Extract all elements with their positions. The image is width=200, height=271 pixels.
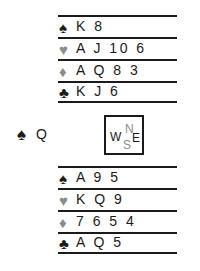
north-spade-ranks: K 8 [76, 18, 105, 34]
compass-south-label: S [123, 139, 131, 151]
compass-west-label: W [110, 131, 121, 143]
north-heart-ranks: A J 10 6 [76, 40, 147, 56]
south-heart-row: ♥ K Q 9 [58, 188, 177, 210]
heart-suit-icon: ♥ [59, 193, 76, 208]
south-diamond-row: ♦ 7 6 5 4 [58, 210, 177, 232]
north-club-ranks: K J 6 [76, 83, 120, 99]
spade-suit-icon: ♠ [59, 20, 76, 35]
north-hand: ♠ K 8 ♥ A J 10 6 ♦ A Q 8 3 ♣ K J 6 [58, 15, 177, 103]
compass-east-label: E [132, 132, 140, 144]
north-diamond-row: ♦ A Q 8 3 [58, 59, 177, 81]
club-suit-icon: ♣ [59, 236, 76, 251]
north-heart-row: ♥ A J 10 6 [58, 37, 177, 59]
south-club-ranks: A Q 5 [76, 234, 124, 250]
compass-box: N S W E [104, 115, 144, 155]
south-spade-row: ♠ A 9 5 [58, 166, 177, 188]
south-diamond-ranks: 7 6 5 4 [76, 213, 136, 229]
south-spade-ranks: A 9 5 [76, 169, 120, 185]
south-heart-ranks: K Q 9 [76, 191, 124, 207]
diamond-suit-icon: ♦ [59, 64, 76, 79]
spade-suit-icon: ♠ [59, 171, 76, 186]
north-spade-row: ♠ K 8 [58, 15, 177, 37]
north-diamond-ranks: A Q 8 3 [76, 62, 140, 78]
spade-suit-icon: ♠ [17, 126, 36, 143]
bridge-hand-diagram: ♠ K 8 ♥ A J 10 6 ♦ A Q 8 3 ♣ K J 6 ♠ Q N… [0, 0, 200, 271]
club-suit-icon: ♣ [59, 85, 76, 100]
west-spade-ranks: Q [36, 126, 49, 142]
south-hand: ♠ A 9 5 ♥ K Q 9 ♦ 7 6 5 4 ♣ A Q 5 [58, 166, 177, 254]
heart-suit-icon: ♥ [59, 42, 76, 57]
south-club-row: ♣ A Q 5 [58, 232, 177, 254]
west-hand: ♠ Q [16, 126, 49, 143]
diamond-suit-icon: ♦ [59, 215, 76, 230]
north-club-row: ♣ K J 6 [58, 81, 177, 103]
